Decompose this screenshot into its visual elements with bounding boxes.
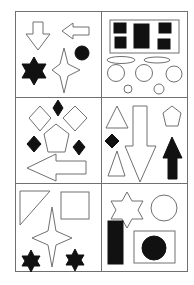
small-circle-outline-icon [154, 84, 164, 94]
left-arrow-outline-icon [62, 23, 89, 39]
diamond-filled-icon [27, 136, 41, 152]
diamond-filled-icon [73, 140, 85, 155]
up-arrow-filled-icon [163, 137, 182, 179]
panel-bottom-left [20, 191, 89, 272]
six-point-star-filled-icon [22, 250, 40, 272]
ellipse-outline-icon [144, 57, 170, 63]
filled-circle-icon [75, 46, 89, 60]
triangle-outline-icon [108, 151, 125, 176]
filled-rectangle-icon [108, 221, 123, 264]
diamond-outline-icon [29, 106, 51, 131]
shape-grid-figure [0, 0, 194, 285]
pentagon-outline-icon [44, 124, 69, 152]
triangle-outline-icon [106, 106, 128, 128]
ellipse-outline-icon [107, 57, 135, 64]
left-arrow-outline-icon [27, 154, 86, 181]
filled-circle-icon [142, 236, 166, 260]
six-point-star-filled-icon [22, 57, 46, 85]
diamond-outline-icon [63, 106, 87, 131]
panel-middle-left [27, 100, 87, 181]
filled-square-icon [114, 23, 126, 33]
right-triangle-outline-icon [20, 191, 50, 225]
diamond-filled-icon [53, 100, 63, 116]
filled-square-icon [134, 24, 149, 48]
circle-outline-icon [151, 195, 177, 221]
down-arrow-outline-icon [125, 106, 156, 182]
panel-top-right [107, 20, 182, 94]
circle-outline-icon [136, 65, 153, 82]
square-outline-icon [61, 192, 89, 219]
filled-square-icon [159, 23, 171, 33]
filled-square-icon [158, 39, 170, 49]
panel-top-left [22, 22, 89, 93]
circle-outline-icon [166, 66, 182, 82]
small-circle-outline-icon [124, 85, 132, 93]
panel-middle-right [105, 106, 182, 182]
diamond-filled-icon [105, 134, 119, 148]
circle-outline-icon [108, 65, 125, 82]
filled-square-icon [115, 37, 126, 48]
down-arrow-outline-icon [26, 22, 50, 50]
pentagon-outline-icon [163, 106, 181, 126]
panel-bottom-right [108, 192, 177, 264]
six-point-star-filled-icon [66, 249, 84, 271]
